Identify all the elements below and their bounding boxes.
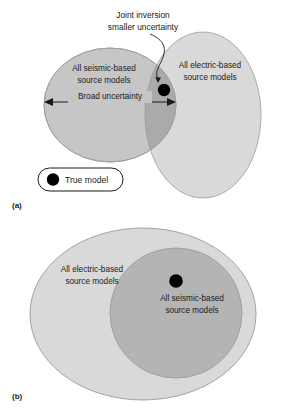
panel-b: All electric-based source models All sei…: [0, 212, 287, 412]
electric-label-b-line1: All electric-based: [61, 265, 124, 274]
panel-b-svg: All electric-based source models All sei…: [0, 212, 287, 412]
panel-b-letter: (b): [12, 392, 23, 401]
legend-true-model: True model: [38, 168, 123, 191]
electric-label-a-line1: All electric-based: [179, 61, 242, 70]
panel-a-letter: (a): [12, 201, 22, 210]
annotation-a-line1: Joint inversion: [116, 10, 170, 20]
true-model-dot-b: [169, 274, 183, 288]
electric-label-b-line2: source models: [65, 277, 118, 286]
panel-a-svg: All seismic-based source models All elec…: [0, 0, 287, 212]
seismic-label-b-line2: source models: [165, 306, 218, 315]
seismic-label-b-line1: All seismic-based: [160, 294, 224, 303]
annotation-a-line2: smaller uncertainty: [108, 22, 179, 32]
true-model-dot-a: [158, 84, 170, 96]
panel-a: All seismic-based source models All elec…: [0, 0, 287, 212]
seismic-label-a-line2: source models: [77, 76, 130, 85]
seismic-label-a-line1: All seismic-based: [72, 64, 136, 73]
legend-true-model-label: True model: [65, 175, 108, 185]
electric-label-a-line2: source models: [183, 73, 236, 82]
legend-true-model-dot-icon: [47, 173, 59, 185]
broad-uncertainty-label: Broad uncertainty: [78, 92, 143, 101]
